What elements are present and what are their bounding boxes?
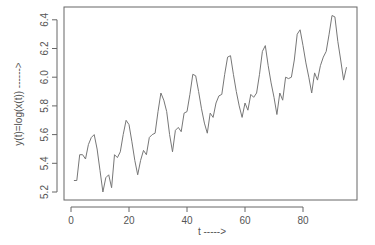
plot-area-border: [64, 7, 357, 200]
y-tick-label: 6.0: [39, 70, 50, 84]
y-tick-label: 6.4: [39, 12, 50, 26]
x-tick-label: 80: [297, 215, 309, 226]
x-axis-label: t ----->: [198, 226, 226, 237]
x-tick-label: 60: [239, 215, 251, 226]
chart-canvas: 5.25.45.65.86.06.26.4 020406080 t ----->…: [0, 0, 375, 245]
x-axis: 020406080: [68, 207, 309, 226]
y-tick-label: 5.8: [39, 99, 50, 113]
x-tick-label: 20: [123, 215, 135, 226]
x-tick-label: 0: [68, 215, 74, 226]
data-series-line: [74, 16, 347, 193]
y-axis: 5.25.45.65.86.06.26.4: [39, 12, 57, 199]
x-tick-label: 40: [181, 215, 193, 226]
y-tick-label: 5.4: [39, 156, 50, 170]
y-tick-label: 5.6: [39, 127, 50, 141]
y-tick-label: 6.2: [39, 41, 50, 55]
y-axis-label: y(t)=log(x(t)) ------>: [13, 62, 24, 145]
y-tick-label: 5.2: [39, 185, 50, 199]
line-chart: 5.25.45.65.86.06.26.4 020406080 t ----->…: [0, 0, 375, 245]
